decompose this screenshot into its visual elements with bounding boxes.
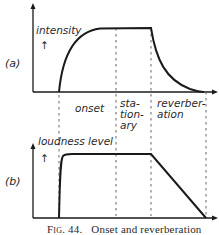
phase-label-stationary: sta- tion- ary (120, 98, 144, 131)
panel-b-ylabel: loudness level (38, 136, 113, 147)
figure-title: Onset and reverberation (91, 223, 201, 235)
intensity-curve (59, 28, 204, 92)
panel-a-tag: (a) (5, 58, 20, 69)
figure-caption: Fig. 44. Onset and reverberation (47, 223, 202, 235)
panel-b-y-arrowhead-icon (31, 143, 36, 149)
phase-label-onset: onset (75, 103, 104, 114)
panel-a-ylabel: intensity (36, 25, 82, 36)
panel-a-y-arrowhead-icon (31, 3, 36, 9)
panel-b-tag: (b) (5, 176, 21, 187)
phase-label-reverberation: reverber- ation (157, 98, 205, 120)
panel-a-x-arrowhead-icon (212, 90, 218, 95)
panel-b-x-arrowhead-icon (212, 216, 218, 221)
panel-a-up-arrow-icon: ↑ (40, 40, 49, 51)
loudness-curve (59, 154, 206, 218)
panel-b-up-arrow-icon: ↑ (40, 153, 49, 164)
figure-number: Fig. 44. (47, 223, 82, 235)
